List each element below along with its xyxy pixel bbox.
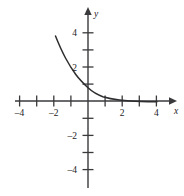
x-axis-label: x <box>173 106 179 116</box>
y-tick-label-neg4: –4 <box>67 165 78 175</box>
y-axis-label: y <box>93 9 99 19</box>
y-tick-label-pos4: 4 <box>72 28 77 38</box>
exponential-curve <box>56 36 158 102</box>
coordinate-plane: –4 –2 2 4 4 2 –2 –4 x y <box>0 0 184 196</box>
x-tick-label-neg4: –4 <box>14 108 25 118</box>
y-axis-arrow-icon <box>84 7 91 15</box>
graph-figure: –4 –2 2 4 4 2 –2 –4 x y <box>0 0 184 196</box>
x-tick-label-pos2: 2 <box>120 108 125 118</box>
y-tick-label-pos2: 2 <box>72 63 77 73</box>
x-axis-arrow-icon <box>169 97 177 104</box>
x-tick-label-neg2: –2 <box>48 108 59 118</box>
x-tick-label-pos4: 4 <box>154 108 159 118</box>
y-tick-label-neg2: –2 <box>67 131 78 141</box>
